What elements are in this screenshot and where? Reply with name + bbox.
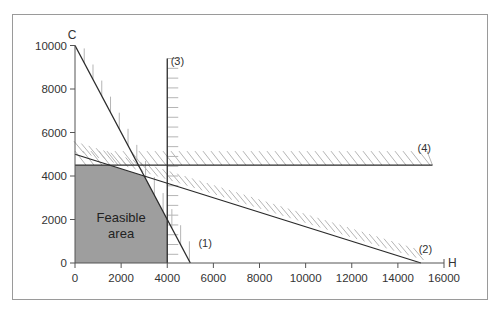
x-tick-label: 12000 xyxy=(336,272,368,284)
x-tick-label: 0 xyxy=(72,272,78,284)
hatch-mark-2 xyxy=(347,227,357,239)
hatch-mark-2 xyxy=(303,213,313,225)
y-tick-label: 0 xyxy=(61,257,67,269)
hatch-mark-2 xyxy=(185,176,195,188)
y-tick-label: 10000 xyxy=(35,40,67,52)
hatch-mark-2 xyxy=(244,195,254,207)
hatch-mark-2 xyxy=(81,144,91,156)
hatch-mark-2 xyxy=(155,167,165,179)
hatch-mark-2 xyxy=(325,220,335,232)
hatch-mark-2 xyxy=(354,229,364,241)
hatch-mark-2 xyxy=(251,197,261,209)
hatch-mark-2 xyxy=(340,225,350,237)
hatch-mark-2 xyxy=(281,206,291,218)
x-tick-label: 4000 xyxy=(154,272,180,284)
hatch-mark-2 xyxy=(214,185,224,197)
hatch-mark-2 xyxy=(273,204,283,216)
constraint-label-3: (3) xyxy=(171,55,184,67)
x-tick-label: 6000 xyxy=(201,272,227,284)
constraint-label-4: (4) xyxy=(417,142,430,154)
labels: CH(1)(2)(3)(4)Feasiblearea xyxy=(68,28,457,271)
x-tick-label: 2000 xyxy=(108,272,134,284)
hatch-mark-2 xyxy=(399,243,409,255)
hatch-mark-2 xyxy=(222,188,232,200)
x-tick-label: 16000 xyxy=(428,272,460,284)
hatch-mark-2 xyxy=(229,190,239,202)
hatch-mark-2 xyxy=(207,183,217,195)
hatch-mark-2 xyxy=(377,236,387,248)
hatch-mark-2 xyxy=(295,211,305,223)
constraint-label-1: (1) xyxy=(198,237,211,249)
hatch-mark-2 xyxy=(192,178,202,190)
hatch-mark-2 xyxy=(369,234,379,246)
hatch-mark-2 xyxy=(332,222,342,234)
y-tick-label: 4000 xyxy=(41,170,67,182)
hatch-mark-2 xyxy=(199,181,209,193)
chart: 0200040006000800010000120001400016000020… xyxy=(0,0,502,314)
y-tick-label: 2000 xyxy=(41,214,67,226)
hatch-mark-2 xyxy=(126,157,136,169)
hatch-mark-2 xyxy=(259,199,269,211)
constraint-label-2: (2) xyxy=(419,243,432,255)
hatch-mark-2 xyxy=(148,164,158,176)
hatch-mark-2 xyxy=(266,202,276,214)
hatch-mark-2 xyxy=(89,146,99,158)
y-tick-label: 6000 xyxy=(41,127,67,139)
hatch-mark-2 xyxy=(288,209,298,221)
y-axis-title: C xyxy=(68,28,77,42)
hatch-mark-2 xyxy=(391,241,401,253)
hatch-mark-2 xyxy=(384,239,394,251)
feasible-area-label: area xyxy=(108,226,135,241)
hatch-mark-2 xyxy=(236,192,246,204)
hatch-mark-2 xyxy=(318,218,328,230)
hatch-mark-2 xyxy=(96,148,106,160)
hatch-mark-2 xyxy=(406,246,416,258)
hatch-mark-2 xyxy=(362,232,372,244)
hatch-mark-2 xyxy=(170,171,180,183)
x-tick-label: 8000 xyxy=(247,272,273,284)
hatch-mark-2 xyxy=(310,215,320,227)
x-tick-label: 10000 xyxy=(290,272,322,284)
feasible-area-label: Feasible xyxy=(97,210,146,225)
hatch-mark-2 xyxy=(177,174,187,186)
y-tick-label: 8000 xyxy=(41,83,67,95)
x-tick-label: 14000 xyxy=(382,272,414,284)
x-axis-title: H xyxy=(448,256,457,270)
